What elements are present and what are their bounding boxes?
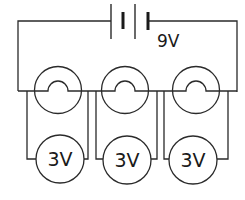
battery: 9V	[111, 4, 180, 51]
lamp-row-wire	[18, 81, 237, 91]
meter-3-label: 3V	[180, 149, 205, 171]
top-left-wire	[18, 21, 111, 91]
meter-1-left-lead	[27, 91, 36, 159]
lamp-2	[102, 67, 149, 114]
lamp-bulb-icon	[102, 67, 149, 114]
meter-1-label: 3V	[47, 148, 72, 170]
meter-3: 3V	[164, 91, 228, 184]
meter-3-left-lead	[164, 91, 169, 159]
meter-2-label: 3V	[114, 149, 139, 171]
meter-2-left-lead	[96, 91, 103, 159]
meter-2-right-lead	[151, 91, 157, 159]
battery-label: 9V	[157, 31, 180, 51]
lamp-bulb-icon	[35, 67, 82, 114]
meter-2: 3V	[96, 91, 157, 184]
meter-1: 3V	[27, 91, 88, 183]
meter-1-right-lead	[84, 91, 88, 159]
lamp-1	[35, 67, 82, 114]
meter-3-right-lead	[217, 91, 228, 159]
circuit-diagram: 9V 3V 3V 3V	[0, 0, 245, 200]
lamp-bulb-icon	[173, 67, 220, 114]
lamp-row	[18, 67, 237, 114]
lamp-3	[173, 67, 220, 114]
